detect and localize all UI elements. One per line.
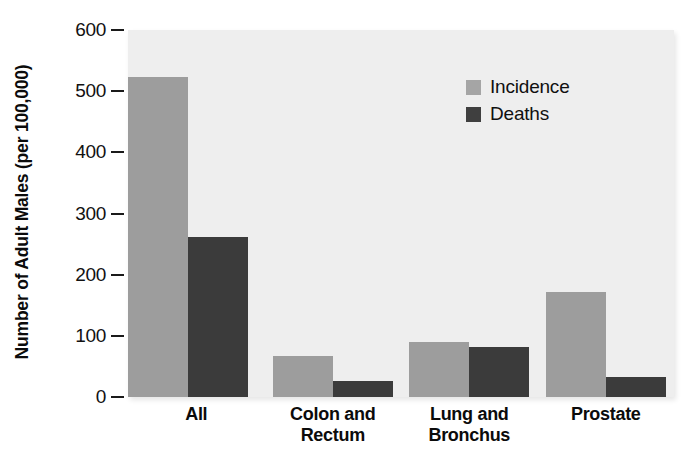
legend-swatch-icon-incidence bbox=[466, 80, 481, 95]
y-axis-ticks: 0100200300400500600 bbox=[36, 0, 128, 476]
bar-incidence-lung-and-bronchus bbox=[409, 342, 469, 397]
bar-incidence-colon-and-rectum bbox=[273, 356, 333, 397]
bar-deaths-lung-and-bronchus bbox=[469, 347, 529, 397]
y-tick-mark bbox=[111, 29, 124, 31]
y-tick-mark bbox=[111, 335, 124, 337]
x-axis-label-line: Colon and bbox=[265, 404, 402, 425]
x-axis-label: Colon andRectum bbox=[265, 404, 402, 446]
legend-item-incidence: Incidence bbox=[466, 75, 570, 99]
legend-swatch-icon-deaths bbox=[466, 107, 481, 122]
y-tick-mark bbox=[111, 213, 124, 215]
legend-item-deaths: Deaths bbox=[466, 102, 570, 126]
bar-deaths-all bbox=[188, 237, 248, 397]
y-tick-label: 600 bbox=[75, 19, 106, 41]
bar-chart-figure: Number of Adult Males (per 100,000) 0100… bbox=[0, 0, 688, 476]
y-tick-label: 0 bbox=[96, 386, 106, 408]
x-axis-label-line: Rectum bbox=[265, 425, 402, 446]
y-tick-mark bbox=[111, 151, 124, 153]
y-tick-label: 400 bbox=[75, 141, 106, 163]
bars-container bbox=[128, 30, 674, 397]
bar-incidence-all bbox=[128, 77, 188, 398]
y-tick-mark bbox=[111, 90, 124, 92]
y-tick-label: 200 bbox=[75, 264, 106, 286]
x-axis-label-line: Lung and bbox=[401, 404, 538, 425]
y-tick-label: 100 bbox=[75, 325, 106, 347]
y-tick-mark bbox=[111, 274, 124, 276]
legend-label-deaths: Deaths bbox=[490, 103, 549, 125]
x-axis-label-line: All bbox=[128, 404, 265, 425]
bar-incidence-prostate bbox=[546, 292, 606, 397]
bar-deaths-colon-and-rectum bbox=[333, 381, 393, 397]
x-axis-label-line: Prostate bbox=[538, 404, 675, 425]
legend-label-incidence: Incidence bbox=[490, 76, 570, 98]
chart-legend: Incidence Deaths bbox=[466, 75, 570, 126]
bar-deaths-prostate bbox=[606, 377, 666, 397]
y-tick-mark bbox=[111, 396, 124, 398]
x-axis-label: Prostate bbox=[538, 404, 675, 425]
y-tick-label: 500 bbox=[75, 80, 106, 102]
plot-area: Incidence Deaths bbox=[128, 30, 674, 397]
y-axis-title: Number of Adult Males (per 100,000) bbox=[4, 12, 40, 412]
x-axis-label: Lung andBronchus bbox=[401, 404, 538, 446]
x-axis-labels: AllColon andRectumLung andBronchusProsta… bbox=[128, 404, 674, 468]
x-axis-label-line: Bronchus bbox=[401, 425, 538, 446]
x-axis-label: All bbox=[128, 404, 265, 425]
y-tick-label: 300 bbox=[75, 203, 106, 225]
